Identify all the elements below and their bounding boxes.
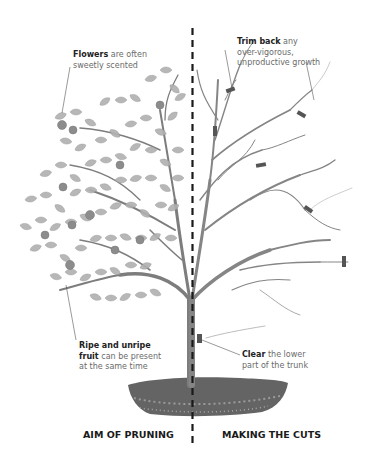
soil-mound-icon xyxy=(128,377,288,416)
pruning-diagram: Flowers are often sweetly scented Trim b… xyxy=(0,0,370,466)
annotation-clear-trunk: Clear the lower part of the trunk xyxy=(242,350,308,371)
annotation-trim-back: Trim back any over-vigorous, unproductiv… xyxy=(237,37,320,69)
foliage-tree-icon xyxy=(19,67,190,385)
title-aim-of-pruning: AIM OF PRUNING xyxy=(83,429,174,440)
pruned-tree-icon xyxy=(192,40,352,385)
title-making-the-cuts: MAKING THE CUTS xyxy=(222,429,321,440)
annotation-fruit: Ripe and unripe fruit can be present at … xyxy=(79,341,161,373)
tree-illustration xyxy=(0,0,370,466)
annotation-flowers: Flowers are often sweetly scented xyxy=(73,50,147,71)
